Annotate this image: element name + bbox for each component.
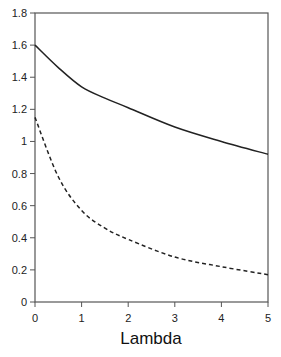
line-chart: 00.20.40.60.811.21.41.61.8 012345 Lambda [0,0,281,357]
plot-frame [35,13,268,302]
series-lines [35,45,268,275]
y-tick-label: 1 [21,135,27,147]
y-tick-label: 1.6 [12,39,27,51]
x-axis-label: Lambda [120,329,182,348]
y-axis: 00.20.40.60.811.21.41.61.8 [12,7,35,308]
series-dashed-line [35,117,268,274]
y-tick-label: 1.8 [12,7,27,19]
y-tick-label: 0.2 [12,264,27,276]
x-tick-label: 0 [32,312,38,324]
y-tick-label: 1.2 [12,103,27,115]
y-tick-label: 0 [21,296,27,308]
x-axis: 012345 [32,302,271,324]
y-tick-label: 0.4 [12,232,27,244]
x-tick-label: 3 [172,312,178,324]
x-tick-label: 4 [218,312,224,324]
y-tick-label: 0.8 [12,168,27,180]
x-tick-label: 5 [265,312,271,324]
y-tick-label: 0.6 [12,200,27,212]
y-tick-label: 1.4 [12,71,27,83]
x-tick-label: 1 [79,312,85,324]
plot-border [35,13,268,302]
series-solid-line [35,45,268,154]
x-tick-label: 2 [125,312,131,324]
